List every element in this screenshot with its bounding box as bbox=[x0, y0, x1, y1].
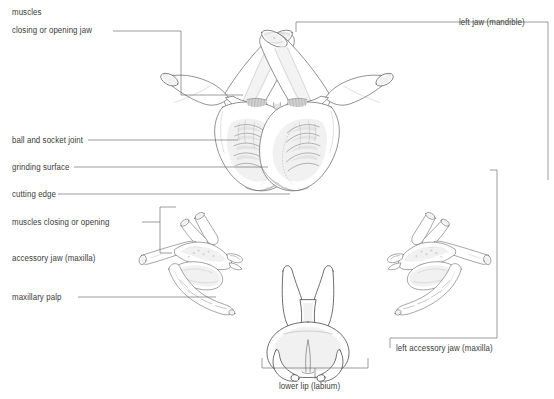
label-left-accessory-jaw-maxilla: left accessory jaw (maxilla) bbox=[396, 343, 493, 354]
labium-drawing bbox=[267, 266, 349, 382]
right-mandible-drawing bbox=[259, 27, 395, 191]
label-ball-and-socket-joint: ball and socket joint bbox=[12, 135, 83, 146]
label-maxillary-palp: maxillary palp bbox=[12, 292, 61, 303]
label-left-jaw-mandible: left jaw (mandible) bbox=[459, 17, 525, 28]
left-maxilla-drawing bbox=[138, 211, 243, 316]
label-lower-lip-labium: lower lip (labium) bbox=[279, 381, 340, 392]
anatomy-illustration: .out{fill:#ffffff;stroke:#4a4a4a;stroke-… bbox=[0, 0, 554, 399]
label-muscles-jaw-line1: muscles bbox=[12, 7, 42, 18]
label-accessory-jaw-maxilla: accessory jaw (maxilla) bbox=[12, 253, 96, 264]
label-muscles-jaw-line2: closing or opening jaw bbox=[12, 25, 92, 36]
label-cutting-edge: cutting edge bbox=[12, 189, 56, 200]
mouthparts-figure: .out{fill:#ffffff;stroke:#4a4a4a;stroke-… bbox=[0, 0, 554, 399]
right-maxilla-drawing bbox=[388, 211, 493, 316]
label-muscles-maxilla: muscles closing or opening bbox=[12, 217, 109, 228]
label-grinding-surface: grinding surface bbox=[12, 162, 70, 173]
